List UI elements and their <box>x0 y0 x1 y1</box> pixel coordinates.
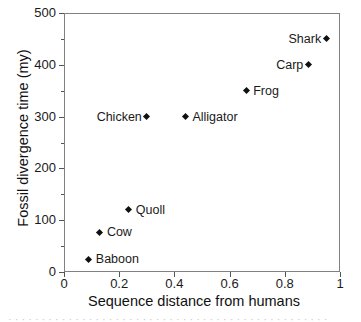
data-point-label: Frog <box>253 84 279 97</box>
data-point-label: Baboon <box>96 253 139 266</box>
caption-remnant: · · · · · · · · · · · · · · · · · · · · … <box>8 313 353 322</box>
data-point-label: Shark <box>289 32 322 45</box>
data-point-label: Cow <box>107 226 132 239</box>
scatter-chart: 0100200300400500 00.20.40.60.81 SharkCar… <box>0 0 361 322</box>
data-point-label: Quoll <box>136 203 165 216</box>
x-tick-label: 1 <box>320 277 360 291</box>
x-tick-label: 0.6 <box>210 277 250 291</box>
x-axis-title: Sequence distance from humans <box>44 293 344 310</box>
x-tick-label: 0.2 <box>99 277 139 291</box>
y-tick-major <box>59 65 64 66</box>
x-tick-label: 0.4 <box>154 277 194 291</box>
y-tick-major <box>59 168 64 169</box>
y-tick-major <box>59 13 64 14</box>
y-tick-minor <box>61 246 64 247</box>
y-axis-title: Fossil divergence time (my) <box>15 3 31 273</box>
x-tick-label: 0 <box>44 277 84 291</box>
plot-area <box>64 13 340 272</box>
y-tick-major <box>59 117 64 118</box>
data-point-label: Alligator <box>192 110 237 123</box>
y-tick-minor <box>61 91 64 92</box>
y-tick-minor <box>61 194 64 195</box>
y-tick-minor <box>61 143 64 144</box>
y-tick-minor <box>61 39 64 40</box>
x-tick-label: 0.8 <box>265 277 305 291</box>
data-point-label: Chicken <box>97 110 142 123</box>
y-tick-major <box>59 220 64 221</box>
data-point-label: Carp <box>276 58 303 71</box>
